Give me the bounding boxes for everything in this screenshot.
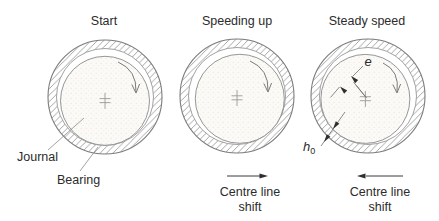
journal-disc	[195, 54, 284, 143]
panel-title-speeding-up: Speeding up	[202, 14, 272, 28]
journal-label: Journal	[17, 150, 58, 164]
bearing-label: Bearing	[57, 173, 100, 187]
panel-title-steady-speed: Steady speed	[329, 14, 405, 28]
panel-title-start: Start	[91, 14, 118, 28]
centre-line-shift-label-line2: shift	[239, 200, 262, 214]
shift-arrow-right-icon	[227, 174, 268, 179]
shift-arrow-left-icon	[357, 174, 403, 179]
bearing-assembly-start	[48, 40, 162, 154]
centre-line-shift-label-line1: Centre line	[350, 185, 410, 199]
centre-line-shift-label-line2: shift	[369, 200, 392, 214]
diagram-canvas: Start Journal Bearing Speeding up Centre…	[0, 0, 439, 221]
journal-bearing-diagram: Start Journal Bearing Speeding up Centre…	[0, 0, 439, 221]
centre-line-shift-label-line1: Centre line	[220, 185, 280, 199]
bearing-assembly-speeding-up	[180, 39, 294, 153]
min-film-label: h0	[303, 139, 315, 156]
eccentricity-label: e	[364, 54, 371, 69]
